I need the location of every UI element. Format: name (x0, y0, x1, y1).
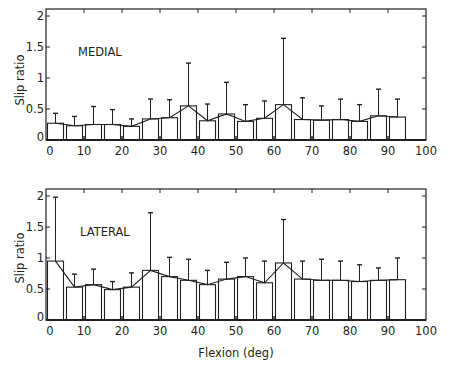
x-tick-label: 30 (153, 144, 168, 158)
error-bars (53, 197, 400, 289)
x-tick-label: 50 (229, 324, 244, 338)
x-tick-label: 20 (115, 324, 130, 338)
lateral-panel: 010203040506070809010000.511.52Slip rati… (13, 189, 437, 338)
bar (105, 125, 121, 141)
bar (219, 279, 235, 320)
y-tick-label: 2 (37, 9, 44, 23)
x-tick-label: 0 (46, 324, 53, 338)
bar (48, 261, 64, 320)
bar (295, 120, 311, 140)
bar (371, 116, 387, 140)
bar (276, 263, 292, 320)
x-tick-label: 50 (229, 144, 244, 158)
bar (162, 277, 178, 320)
y-tick-label: 1 (37, 71, 44, 85)
bar (257, 118, 273, 140)
x-tick-label: 70 (305, 144, 320, 158)
bar (181, 280, 197, 320)
bar (124, 126, 140, 140)
bar (390, 117, 406, 140)
y-tick-label: 0 (37, 310, 44, 324)
x-tick-label: 80 (343, 144, 358, 158)
x-tick-label: 80 (343, 324, 358, 338)
bar (333, 280, 349, 320)
x-tick-label: 90 (381, 324, 396, 338)
bar (352, 282, 368, 320)
x-tick-label: 20 (115, 144, 130, 158)
bar (67, 287, 83, 320)
bar (143, 119, 159, 140)
bar (86, 125, 102, 141)
panel-label-lateral: LATERAL (80, 225, 130, 239)
y-axis-title: Slip ratio (13, 54, 27, 105)
bar (371, 280, 387, 320)
x-tick-label: 40 (191, 144, 206, 158)
y-tick-label: 0.5 (26, 282, 44, 296)
bar (390, 280, 406, 320)
bar (238, 277, 254, 320)
bar (48, 123, 64, 140)
medial-panel: 010203040506070809010000.511.52Slip rati… (13, 9, 437, 158)
x-tick-label: 100 (415, 324, 437, 338)
bar (314, 120, 330, 140)
bar (200, 121, 216, 140)
x-tick-label: 10 (77, 324, 92, 338)
bar (181, 106, 197, 140)
axes-frame (46, 9, 426, 140)
bar (200, 285, 216, 320)
y-tick-label: 1.5 (26, 220, 44, 234)
y-tick-label: 1 (37, 251, 44, 265)
figure: 010203040506070809010000.511.52Slip rati… (0, 0, 449, 378)
x-tick-label: 0 (46, 144, 53, 158)
chart-canvas: 010203040506070809010000.511.52Slip rati… (0, 0, 449, 378)
y-tick-label: 0.5 (26, 102, 44, 116)
bar (86, 285, 102, 320)
x-tick-label: 60 (267, 324, 282, 338)
bar (333, 120, 349, 140)
x-tick-label: 90 (381, 144, 396, 158)
x-tick-label: 40 (191, 324, 206, 338)
x-tick-label: 70 (305, 324, 320, 338)
bar (352, 121, 368, 140)
y-tick-label: 0 (37, 130, 44, 144)
x-tick-label: 10 (77, 144, 92, 158)
panel-label-medial: MEDIAL (78, 45, 122, 59)
bar (257, 283, 273, 320)
x-tick-label: 100 (415, 144, 437, 158)
x-axis-title: Flexion (deg) (198, 346, 273, 360)
y-tick-label: 1.5 (26, 40, 44, 54)
bar (105, 290, 121, 320)
bar (67, 126, 83, 140)
x-tick-label: 60 (267, 144, 282, 158)
x-tick-label: 30 (153, 324, 168, 338)
bar (314, 280, 330, 320)
bar (143, 270, 159, 320)
y-tick-label: 2 (37, 189, 44, 203)
bar (219, 114, 235, 140)
bar (124, 287, 140, 320)
bar (238, 121, 254, 140)
bar (295, 279, 311, 320)
axes-frame (46, 189, 426, 320)
bar (276, 105, 292, 140)
bar (162, 118, 178, 140)
y-axis-title: Slip ratio (13, 232, 27, 283)
